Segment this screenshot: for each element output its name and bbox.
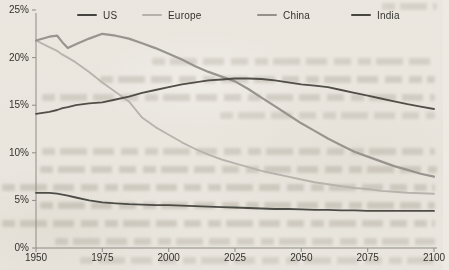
- x-tick-label-2050: 2050: [283, 252, 319, 263]
- legend-label-india: India: [377, 10, 400, 21]
- legend-label-europe: Europe: [168, 10, 201, 21]
- y-tick-label-15: 15%: [0, 99, 29, 110]
- y-tick-label-20: 20%: [0, 52, 29, 63]
- axes: [32, 10, 437, 252]
- series-line-india: [36, 79, 434, 114]
- y-tick-label-10: 10%: [0, 147, 29, 158]
- x-tick-label-1950: 1950: [18, 252, 54, 263]
- legend-item-us: US: [77, 9, 117, 21]
- x-tick-label-2100: 2100: [416, 252, 449, 263]
- europe-line-swatch: [142, 14, 162, 17]
- legend-item-europe: Europe: [142, 9, 201, 21]
- x-tick-label-1975: 1975: [84, 252, 120, 263]
- series-line-europe: [36, 41, 434, 194]
- x-tick-label-2025: 2025: [217, 252, 253, 263]
- legend-item-china: China: [257, 9, 310, 21]
- series-line-us: [36, 193, 434, 211]
- china-line-swatch: [257, 14, 277, 17]
- india-line-swatch: [351, 14, 371, 17]
- x-tick-label-2000: 2000: [151, 252, 187, 263]
- series-line-china: [36, 34, 434, 177]
- chart-series: [36, 34, 434, 211]
- x-tick-label-2075: 2075: [350, 252, 386, 263]
- legend-label-us: US: [103, 10, 117, 21]
- legend-label-china: China: [283, 10, 310, 21]
- axis-spine: [32, 10, 437, 252]
- legend-item-india: India: [351, 9, 400, 21]
- y-tick-label-5: 5%: [0, 194, 29, 205]
- us-line-swatch: [77, 14, 97, 17]
- y-tick-label-25: 25%: [0, 4, 29, 15]
